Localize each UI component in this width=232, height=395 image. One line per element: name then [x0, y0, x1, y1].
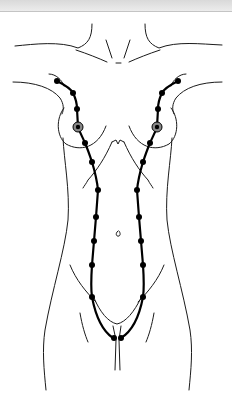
neck-shoulders-outline [15, 24, 222, 63]
milk-line-right [121, 81, 178, 338]
pelvis-outline [70, 265, 164, 370]
torso-diagram [0, 0, 232, 395]
milk-line-left [57, 81, 113, 338]
nipple-right [152, 122, 162, 132]
nipple-left [73, 122, 83, 132]
torso-outline [43, 138, 191, 390]
navel [116, 231, 120, 236]
arm-outline [13, 74, 222, 114]
milk-line-dots [54, 78, 181, 341]
